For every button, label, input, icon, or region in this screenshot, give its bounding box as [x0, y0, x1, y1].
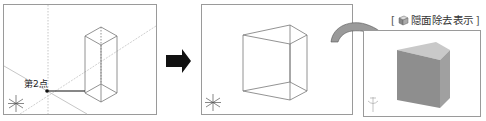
panel-2 [202, 5, 353, 115]
panel-3 [364, 31, 481, 117]
illustration-stage: 第2点 [ 隠面除去表示 ] [0, 0, 486, 121]
second-point-marker [45, 89, 49, 93]
panel-1 [4, 5, 157, 115]
hidden-surface-caption: [ 隠面除去表示 ] [391, 15, 480, 26]
shaded-wedge [397, 42, 450, 108]
second-point-label: 第2点 [24, 80, 48, 89]
hidden-surface-removal-icon [398, 15, 409, 26]
caption-close-bracket: ] [476, 15, 481, 26]
black-right-arrow-icon [166, 49, 191, 73]
caption-open-bracket: [ [391, 15, 396, 26]
caption-text: 隠面除去表示 [411, 15, 474, 26]
